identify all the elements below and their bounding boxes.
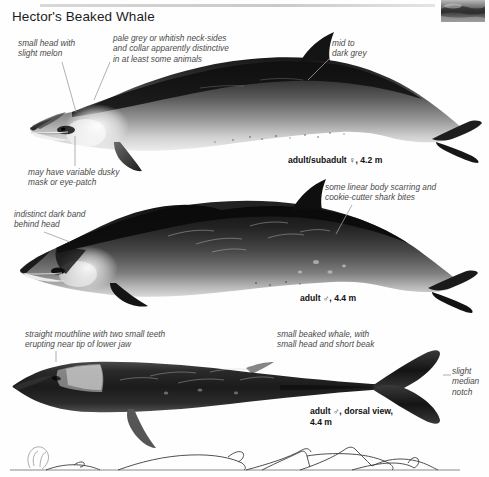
annotation-indistinct-dark-band: indistinct dark band behind head [14,209,86,230]
annotation-mid-to-dark-grey: mid to dark grey [332,38,367,59]
figure-adult-subadult-female [30,32,482,171]
annotation-dusky-mask: may have variable dusky mask or eye-patc… [28,167,119,188]
annotation-linear-body-scarring: some linear body scarring and cookie-cut… [325,182,436,203]
leader-indistinct-band [44,232,70,242]
page-title: Hector's Beaked Whale [12,9,155,24]
caption-adult-male: adult ♂, 4.4 m [300,293,356,304]
caption-adult-male-dorsal: adult ♂, dorsal view, 4.4 m [310,406,393,428]
leader-small-head [62,62,76,112]
annotation-small-head: small head with slight melon [18,38,75,59]
whale-illustrations [0,0,489,477]
leader-lines [0,0,489,477]
annotation-slight-median-notch: slight median notch [452,366,479,397]
leader-pale-grey-neck [94,62,110,100]
annotation-small-beaked-whale: small beaked whale, with small head and … [277,329,374,350]
leader-mid-dark-grey [308,58,330,80]
figure-adult-male-dorsal [13,350,449,448]
surfacing-dive-sequence [10,447,460,470]
leader-linear-scarring [336,205,352,234]
top-rule [40,4,435,7]
beaked-whale-photo-thumbnail [441,0,485,22]
field-guide-page: Hector's Beaked Whale [0,0,489,477]
annotation-straight-mouthline: straight mouthline with two small teeth … [25,329,165,350]
caption-adult-subadult-female: adult/subadult ♀, 4.2 m [288,155,382,166]
annotation-pale-grey-neck: pale grey or whitish neck-sides and coll… [113,33,229,64]
